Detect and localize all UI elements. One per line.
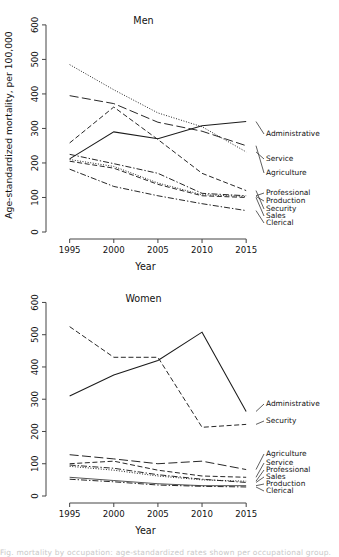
svg-text:300: 300 [30,391,40,407]
leader-security [256,421,264,424]
chart-panel-men: 010020030040050060019952000200520102015M… [0,0,339,278]
svg-text:2015: 2015 [235,509,257,519]
panel-title: Men [133,15,153,26]
svg-text:2005: 2005 [147,509,169,519]
svg-text:100: 100 [30,456,40,472]
series-line-sales [70,465,247,482]
chart-svg-women: 010020030040050060019952000200520102015W… [0,278,339,557]
svg-text:1995: 1995 [59,245,81,255]
svg-text:400: 400 [30,86,40,102]
svg-text:100: 100 [30,189,40,205]
svg-text:2005: 2005 [147,245,169,255]
figure-mortality-by-occupation: 010020030040050060019952000200520102015M… [0,0,339,557]
leader-agriculture [256,454,264,470]
svg-text:500: 500 [30,327,40,343]
series-line-administrative [70,122,247,159]
series-label-clerical: Clerical [266,218,294,227]
series-label-administrative: Administrative [266,129,320,138]
series-line-security [70,327,247,428]
leader-clerical [256,487,264,491]
leader-agriculture [256,146,264,173]
series-line-clerical [70,169,247,210]
leader-administrative [256,404,264,411]
x-axis-title: Year [134,525,155,536]
leader-service [256,152,264,159]
x-axis-title: Year [134,261,155,272]
y-axis-title: Age-standardized mortality, per 100,000 [3,31,14,219]
svg-text:200: 200 [30,155,40,171]
svg-text:2000: 2000 [103,245,125,255]
svg-text:300: 300 [30,120,40,136]
series-label-service: Service [266,154,294,163]
series-label-security: Security [266,416,297,425]
svg-text:200: 200 [30,423,40,439]
svg-text:600: 600 [30,294,40,310]
svg-text:500: 500 [30,51,40,67]
svg-text:400: 400 [30,359,40,375]
chart-panel-women: 010020030040050060019952000200520102015W… [0,278,339,557]
series-label-clerical: Clerical [266,486,294,495]
series-line-production [70,477,247,485]
svg-text:2015: 2015 [235,245,257,255]
series-line-administrative [70,332,247,411]
series-line-security [70,107,247,191]
figure-caption: Fig. mortality by occupation: age-standa… [0,548,339,557]
svg-text:2010: 2010 [191,509,213,519]
svg-text:2010: 2010 [191,245,213,255]
series-line-professional [70,154,247,195]
svg-text:2000: 2000 [103,509,125,519]
series-label-administrative: Administrative [266,399,320,408]
series-label-agriculture: Agriculture [266,168,307,177]
series-line-agriculture [70,96,247,146]
panel-title: Women [125,293,161,304]
leader-administrative [256,122,264,134]
svg-text:0: 0 [30,229,40,234]
svg-text:0: 0 [30,493,40,498]
chart-svg-men: 010020030040050060019952000200520102015M… [0,0,339,278]
series-label-agriculture: Agriculture [266,449,307,458]
svg-text:600: 600 [30,17,40,33]
leader-production [256,484,264,486]
svg-text:1995: 1995 [59,509,81,519]
